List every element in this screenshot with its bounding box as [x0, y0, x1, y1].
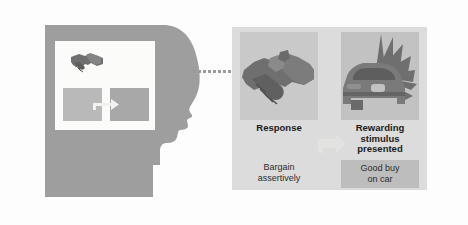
- handshake-illustration: [240, 32, 318, 120]
- title-line: presented: [341, 144, 419, 155]
- handshake-illustration-frame: [240, 32, 318, 120]
- cell-caption-response: Bargain assertively: [240, 162, 318, 183]
- caption-line: Good buy: [341, 163, 419, 174]
- car-with-starburst-illustration: [341, 32, 419, 120]
- connector-dot: [208, 70, 211, 73]
- figure-canvas: Response Bargain assertively: [0, 0, 468, 225]
- caption-line: assertively: [240, 173, 318, 184]
- connector-dot: [223, 70, 226, 73]
- caption-line: Bargain: [240, 162, 318, 173]
- handshake-icon: [70, 50, 104, 76]
- connector-dot: [198, 70, 201, 73]
- connector-dot: [228, 70, 231, 73]
- panel-cell-response: Response Bargain assertively: [240, 27, 318, 190]
- connector-dot: [213, 70, 216, 73]
- cell-title-stimulus: Rewarding stimulus presented: [341, 123, 419, 155]
- caption-line: on car: [341, 174, 419, 185]
- cell-title-response: Response: [240, 123, 318, 134]
- title-line: Rewarding: [341, 123, 419, 134]
- connector-dot: [193, 70, 196, 73]
- cell-caption-stimulus: Good buy on car: [341, 160, 419, 188]
- concept-arrow-icon: [93, 99, 119, 110]
- car-illustration-frame: [341, 32, 419, 120]
- panel-cell-stimulus: Rewarding stimulus presented Good buy on…: [341, 27, 419, 190]
- connector-dot: [218, 70, 221, 73]
- connector-dot: [203, 70, 206, 73]
- stimulus-response-panel: Response Bargain assertively: [232, 27, 427, 190]
- thought-box: [55, 41, 155, 130]
- head-silhouette-group: [45, 25, 203, 197]
- concept-association-pair: [63, 88, 149, 121]
